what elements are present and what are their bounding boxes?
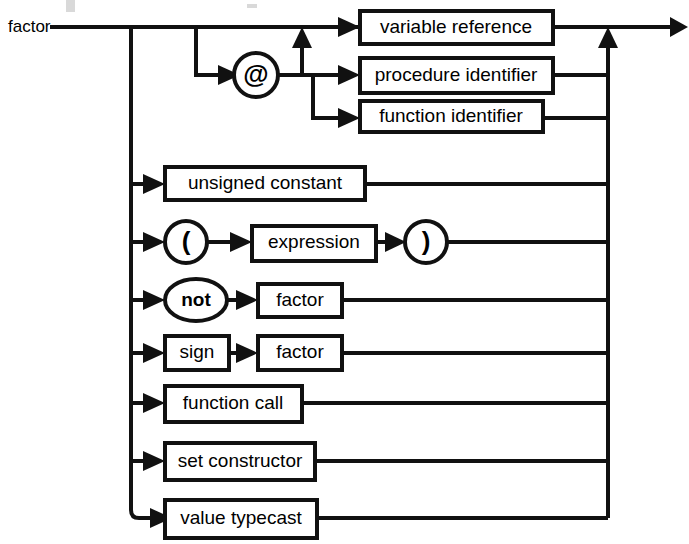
nonterminal-expression-label: expression — [268, 231, 360, 252]
nonterminal-value-typecast-label: value typecast — [180, 507, 302, 528]
open-paren-arrow-icon — [143, 232, 165, 252]
row-procedure-identifier: procedure identifier — [360, 58, 608, 93]
syntax-diagram-canvas: factor @ — [0, 0, 689, 544]
row-function-identifier: function identifier — [360, 101, 608, 132]
scan-artifact — [66, 0, 75, 12]
merge-up-arrow-icon — [598, 27, 618, 48]
nonterminal-function-call-label: function call — [183, 392, 283, 413]
factor-sign-arrow-icon — [236, 343, 258, 363]
nonterminal-unsigned-constant-label: unsigned constant — [188, 172, 343, 193]
railroad-diagram: factor @ — [0, 0, 689, 544]
nonterminal-function-identifier-label: function identifier — [379, 105, 523, 126]
variable-reference-arrow-icon — [338, 17, 360, 37]
procedure-identifier-arrow-icon — [338, 65, 360, 85]
exit-arrow-icon — [670, 17, 688, 37]
left-rail — [131, 27, 150, 518]
function-identifier-arrow-icon — [338, 108, 360, 128]
sign-arrow-icon — [143, 343, 165, 363]
expression-arrow-icon — [230, 232, 252, 252]
close-paren-arrow-icon — [385, 232, 406, 252]
nonterminal-factor-after-not-label: factor — [276, 289, 324, 310]
right-collector-rail — [598, 27, 618, 518]
at-bypass-up-arrow-icon — [292, 27, 312, 48]
rule-name-label: factor — [8, 17, 51, 36]
nonterminal-set-constructor-label: set constructor — [178, 450, 303, 471]
terminal-close-paren-label: ) — [422, 226, 431, 256]
row-not-factor: not factor — [131, 279, 608, 321]
terminal-at-sign-label: @ — [243, 59, 268, 89]
row-variable-reference: variable reference — [360, 11, 608, 44]
terminal-open-paren-label: ( — [182, 226, 191, 256]
nonterminal-variable-reference-label: variable reference — [380, 16, 532, 37]
factor-not-arrow-icon — [236, 290, 258, 310]
row-value-typecast: value typecast — [150, 500, 608, 538]
row-set-constructor: set constructor — [131, 443, 608, 480]
row-unsigned-constant: unsigned constant — [131, 167, 608, 200]
terminal-not-label: not — [181, 289, 211, 310]
unsigned-constant-arrow-icon — [143, 174, 165, 194]
scan-artifact — [247, 4, 257, 8]
not-arrow-icon — [143, 290, 165, 310]
set-constructor-arrow-icon — [143, 451, 165, 471]
row-sign-factor: sign factor — [131, 336, 608, 370]
row-parenthesized-expression: ( expression ) — [131, 221, 608, 263]
nonterminal-procedure-identifier-label: procedure identifier — [375, 64, 538, 85]
function-call-arrow-icon — [143, 393, 165, 413]
at-prefix-group: @ — [196, 17, 360, 128]
nonterminal-sign-label: sign — [180, 341, 215, 362]
nonterminal-factor-after-sign-label: factor — [276, 341, 324, 362]
row-function-call: function call — [131, 386, 608, 422]
